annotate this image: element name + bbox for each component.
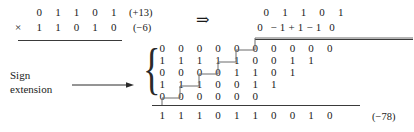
multiplicand-digit: 0 bbox=[30, 7, 49, 18]
pp-digit: 0 bbox=[265, 43, 284, 54]
multiplier-row: 1 1 0 1 0 bbox=[30, 22, 123, 33]
result-rule bbox=[152, 105, 360, 106]
pp-digit: 0 bbox=[302, 43, 321, 54]
pp-digit: 1 bbox=[209, 55, 228, 66]
recoded-multiplicand-digit: 1 bbox=[276, 7, 295, 18]
partial-product-row: 1 1 1 0 0 1 1 bbox=[153, 79, 283, 90]
pp-digit: 0 bbox=[283, 43, 302, 54]
pp-digit: 0 bbox=[153, 91, 172, 102]
recoded-sign: − bbox=[305, 22, 314, 33]
result-digit: 0 bbox=[265, 110, 284, 121]
pp-digit: 0 bbox=[227, 79, 246, 90]
recoded-multiplier-row: 0 − 1 + 1 − 1 0 bbox=[251, 22, 341, 33]
recoded-digit: 1 bbox=[314, 22, 323, 33]
recoded-multiplicand-digit: 1 bbox=[331, 7, 350, 18]
pp-digit: 1 bbox=[283, 67, 302, 78]
pp-digit: 1 bbox=[227, 67, 246, 78]
pp-digit: 1 bbox=[190, 55, 209, 66]
pp-digit: 1 bbox=[153, 55, 172, 66]
multiplicand-digit: 1 bbox=[49, 7, 68, 18]
pp-digit: 1 bbox=[172, 55, 191, 66]
sign-extension-line2: extension bbox=[10, 82, 52, 96]
multiplicand-digit: 0 bbox=[86, 7, 105, 18]
pp-digit: 0 bbox=[172, 43, 191, 54]
result-row: 1 1 1 0 1 1 0 0 1 0 bbox=[153, 110, 339, 121]
multiplier-digit: 0 bbox=[104, 22, 123, 33]
multiplier-digit: 1 bbox=[86, 22, 105, 33]
pp-digit: 1 bbox=[283, 55, 302, 66]
recoded-sign: − bbox=[269, 22, 278, 33]
recoded-multiplicand-row: 0 1 1 0 1 bbox=[257, 7, 350, 18]
pp-digit: 0 bbox=[227, 91, 246, 102]
result-digit: 1 bbox=[153, 110, 172, 121]
partial-product-row: 1 1 1 1 1 0 0 1 1 bbox=[153, 55, 320, 66]
pp-digit: 1 bbox=[246, 67, 265, 78]
pp-digit: 0 bbox=[172, 91, 191, 102]
recoded-sign: + bbox=[287, 22, 296, 33]
partial-product-row: 0 0 0 0 0 0 0 0 0 0 bbox=[153, 43, 339, 54]
implies-arrow-icon: ⇒ bbox=[196, 12, 209, 28]
pp-digit: 0 bbox=[246, 43, 265, 54]
pp-digit: 0 bbox=[209, 43, 228, 54]
pp-digit: 1 bbox=[227, 55, 246, 66]
pp-digit: 0 bbox=[153, 67, 172, 78]
multiplier-digit: 1 bbox=[30, 22, 49, 33]
multiply-operator-icon: × bbox=[15, 22, 21, 33]
partial-product-row: 0 0 0 0 1 1 0 1 bbox=[153, 67, 302, 78]
recoded-multiplicand-digit: 0 bbox=[313, 7, 332, 18]
pp-digit: 0 bbox=[190, 91, 209, 102]
result-digit: 1 bbox=[190, 110, 209, 121]
recoded-digit: 0 bbox=[323, 22, 341, 33]
multiplicand-row: 0 1 1 0 1 bbox=[30, 7, 123, 18]
pp-digit: 0 bbox=[227, 43, 246, 54]
result-digit: 1 bbox=[227, 110, 246, 121]
booth-multiplication-figure: 0 1 1 0 1 × 1 1 0 1 0 (+13) (−6) ⇒ 0 1 1… bbox=[0, 0, 414, 132]
pp-digit: 1 bbox=[302, 55, 321, 66]
pp-digit: 1 bbox=[153, 79, 172, 90]
partial-products-top-rule bbox=[255, 39, 413, 40]
recoded-multiplicand-digit: 0 bbox=[257, 7, 276, 18]
pp-digit: 0 bbox=[265, 55, 284, 66]
result-decimal-value: (−78) bbox=[372, 111, 395, 122]
pp-digit: 0 bbox=[153, 43, 172, 54]
recoded-multiplicand-digit: 1 bbox=[294, 7, 313, 18]
recoded-digit: 1 bbox=[278, 22, 287, 33]
result-digit: 1 bbox=[172, 110, 191, 121]
recoded-digit: 0 bbox=[251, 22, 269, 33]
multiplier-digit: 0 bbox=[67, 22, 86, 33]
multiplicand-digit: 1 bbox=[104, 7, 123, 18]
result-digit: 0 bbox=[283, 110, 302, 121]
pp-digit: 1 bbox=[265, 79, 284, 90]
pp-digit: 0 bbox=[172, 67, 191, 78]
pp-digit: 1 bbox=[190, 79, 209, 90]
sign-extension-line1: Sign bbox=[10, 68, 52, 82]
result-digit: 0 bbox=[209, 110, 228, 121]
recoded-digit: 1 bbox=[296, 22, 305, 33]
partial-product-row: 0 0 0 0 0 0 bbox=[153, 91, 265, 102]
pp-digit: 1 bbox=[246, 79, 265, 90]
pp-digit: 0 bbox=[246, 55, 265, 66]
pp-digit: 0 bbox=[209, 79, 228, 90]
right-arrow-icon bbox=[72, 80, 134, 90]
multiplication-rule bbox=[18, 40, 122, 41]
multiplier-digit: 1 bbox=[49, 22, 68, 33]
sign-extension-label: Sign extension bbox=[10, 68, 52, 96]
multiplier-decimal-value: (−6) bbox=[133, 22, 151, 33]
pp-digit: 1 bbox=[172, 79, 191, 90]
pp-digit: 0 bbox=[246, 91, 265, 102]
pp-digit: 0 bbox=[265, 67, 284, 78]
pp-digit: 0 bbox=[190, 43, 209, 54]
pp-digit: 0 bbox=[190, 67, 209, 78]
multiplicand-digit: 1 bbox=[67, 7, 86, 18]
result-digit: 1 bbox=[302, 110, 321, 121]
pp-digit: 0 bbox=[209, 67, 228, 78]
result-digit: 1 bbox=[246, 110, 265, 121]
pp-digit: 0 bbox=[320, 43, 339, 54]
result-digit: 0 bbox=[320, 110, 339, 121]
multiplicand-decimal-value: (+13) bbox=[129, 7, 152, 18]
pp-digit: 0 bbox=[209, 91, 228, 102]
